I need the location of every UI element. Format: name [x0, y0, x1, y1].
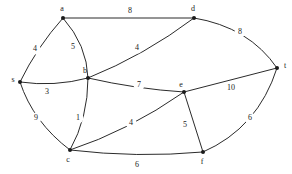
node-label-e: e — [179, 80, 183, 89]
edge-weight-d-t: 8 — [238, 27, 242, 36]
edge-weight-s-a: 4 — [33, 44, 37, 53]
edge-f-t — [203, 68, 277, 152]
edge-weight-e-f: 5 — [183, 120, 187, 129]
graph-diagram: 439584174651086 sabcdeft — [0, 0, 292, 174]
node-label-s: s — [11, 75, 14, 84]
edge-weight-a-b: 5 — [71, 42, 75, 51]
edge-weight-c-f: 6 — [135, 160, 139, 169]
edge-s-b — [20, 78, 88, 84]
edge-weight-s-b: 3 — [45, 87, 49, 96]
edge-weight-e-t: 10 — [227, 83, 235, 92]
edge-weights-layer: 439584174651086 — [30, 6, 256, 171]
node-label-c: c — [66, 155, 70, 164]
node-label-t: t — [284, 61, 287, 70]
edge-weight-b-d: 4 — [135, 43, 139, 52]
node-a[interactable] — [61, 16, 65, 20]
edge-weight-c-e: 4 — [129, 118, 133, 127]
node-t[interactable] — [275, 66, 279, 70]
edge-c-f — [70, 150, 203, 155]
node-e[interactable] — [182, 90, 186, 94]
edge-weight-f-t: 6 — [248, 113, 252, 122]
edge-s-a — [20, 18, 63, 82]
edge-weight-s-c: 9 — [34, 113, 38, 122]
edges-layer — [20, 18, 277, 155]
edge-weight-b-c: 1 — [76, 113, 80, 122]
edge-weight-b-e: 7 — [137, 80, 141, 89]
node-d[interactable] — [192, 16, 196, 20]
edge-d-t — [194, 18, 277, 68]
node-label-f: f — [201, 157, 204, 166]
nodes-layer: sabcdeft — [11, 4, 286, 166]
node-f[interactable] — [201, 150, 205, 154]
node-label-d: d — [191, 4, 195, 13]
node-label-b: b — [83, 66, 87, 75]
node-b[interactable] — [86, 76, 90, 80]
node-c[interactable] — [68, 148, 72, 152]
graph-canvas: 439584174651086 sabcdeft — [0, 0, 292, 174]
node-s[interactable] — [18, 80, 22, 84]
edge-weight-a-d: 8 — [128, 6, 132, 15]
node-label-a: a — [60, 4, 64, 13]
